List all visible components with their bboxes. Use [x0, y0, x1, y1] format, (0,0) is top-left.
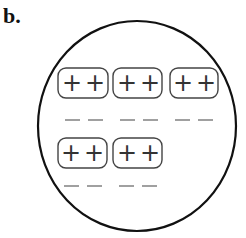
group-3: + + [170, 68, 218, 120]
plus-icon: + [62, 69, 82, 97]
group-5: + + [113, 138, 162, 186]
plus-icon: + [117, 139, 137, 167]
group-1: + + [58, 68, 108, 120]
plus-icon: + [85, 69, 105, 97]
charge-diagram: + + + + + + + + + + [0, 0, 246, 238]
plus-icon: + [61, 139, 81, 167]
plus-icon: + [140, 139, 160, 167]
group-2: + + [113, 68, 162, 120]
plus-icon: + [84, 139, 104, 167]
plus-icon: + [117, 69, 137, 97]
plus-icon: + [196, 69, 216, 97]
plus-icon: + [173, 69, 193, 97]
plus-icon: + [140, 69, 160, 97]
container-circle [38, 21, 236, 231]
group-4: + + [58, 138, 107, 186]
